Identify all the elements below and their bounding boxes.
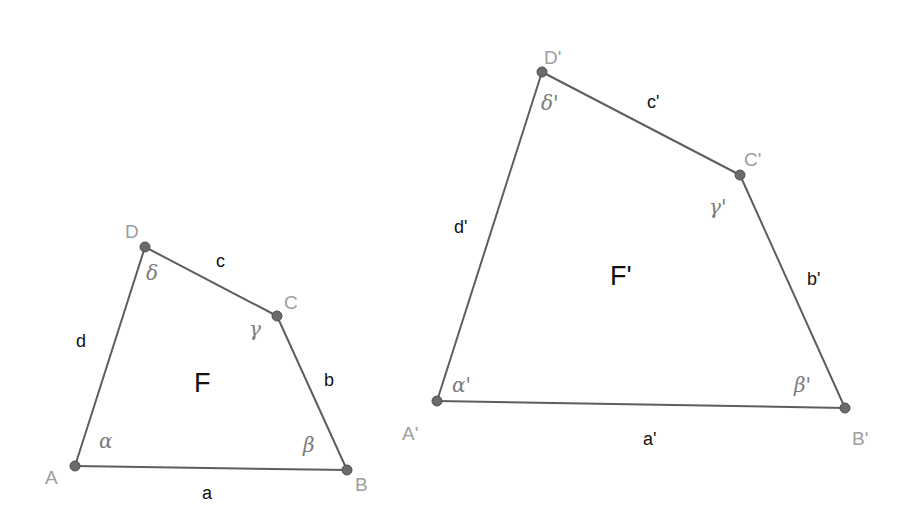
angle-label-alpha: α: [99, 429, 113, 453]
vertex-A-prime[interactable]: [432, 396, 442, 406]
point-label-C-prime: C': [744, 149, 761, 170]
side-label-a: a: [202, 483, 213, 503]
side-label-a-prime: a': [643, 429, 656, 449]
angle-label-alpha-prime: α': [452, 373, 471, 397]
quadrilateral-F: A B C D α β γ δ a b c d F: [45, 221, 368, 503]
side-label-b: b: [324, 370, 334, 390]
angle-label-gamma: γ: [249, 317, 261, 341]
side-a-prime: [437, 401, 845, 408]
vertex-A[interactable]: [70, 461, 80, 471]
angle-label-delta: δ: [146, 261, 158, 285]
angle-label-beta-prime: β': [793, 373, 811, 397]
side-label-c: c: [216, 251, 225, 271]
vertex-D[interactable]: [140, 242, 150, 252]
side-c-prime: [542, 72, 740, 175]
vertex-C-prime[interactable]: [735, 170, 745, 180]
side-label-b-prime: b': [807, 269, 820, 289]
side-label-d-prime: d': [454, 217, 467, 237]
side-label-c-prime: c': [647, 92, 659, 112]
vertex-B-prime[interactable]: [840, 403, 850, 413]
angle-label-delta-prime: δ': [541, 91, 559, 115]
figure-label-F-prime: F': [610, 261, 632, 291]
figure-label-F: F: [194, 368, 211, 398]
side-c: [145, 247, 277, 316]
point-label-B: B: [355, 474, 368, 495]
side-d-prime: [437, 72, 542, 401]
point-label-A: A: [45, 467, 58, 488]
point-label-D: D: [125, 221, 139, 242]
vertex-C[interactable]: [272, 311, 282, 321]
vertex-B[interactable]: [342, 465, 352, 475]
point-label-B-prime: B': [852, 428, 868, 449]
side-label-d: d: [76, 331, 86, 351]
quadrilateral-F-prime: A' B' C' D' α' β' γ' δ' a' b' c' d' F': [402, 47, 868, 449]
angle-label-beta: β: [302, 433, 315, 457]
vertex-D-prime[interactable]: [537, 67, 547, 77]
point-label-A-prime: A': [402, 423, 418, 444]
angle-label-gamma-prime: γ': [709, 195, 726, 219]
side-a: [75, 466, 347, 470]
side-b-prime: [740, 175, 845, 408]
similar-quadrilaterals-diagram: A B C D α β γ δ a b c d F A' B' C' D' α'…: [0, 0, 916, 519]
point-label-D-prime: D': [544, 47, 561, 68]
point-label-C: C: [284, 292, 298, 313]
